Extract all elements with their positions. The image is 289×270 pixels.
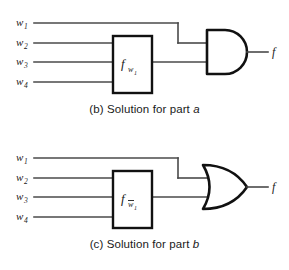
circuit-diagram-or: f w 1 f w 1 w 2 w 3 w 4 [0,135,289,240]
input-index-w2: 2 [24,177,28,186]
output-label-f: f [272,180,277,194]
output-label-f: f [272,45,277,59]
input-index-w1: 1 [24,157,28,166]
input-index-w4: 4 [24,81,28,90]
input-label-w1: w [16,16,24,28]
input-index-w4: 4 [24,216,28,225]
input-index-w3: 3 [23,61,28,70]
input-index-w1: 1 [24,22,28,31]
input-label-w3: w [16,55,24,67]
figure-solution-part-a: f w 1 f w 1 w 2 w 3 w 4 (b) Solution for… [0,0,289,135]
circuit-diagram-and: f w 1 f w 1 w 2 w 3 w 4 [0,0,289,105]
caption-prefix-b: (b) Solution for part [89,103,193,115]
caption-part-b: (c) Solution for part b [0,238,289,250]
figure-solution-part-b: f w 1 f w 1 w 2 w 3 w 4 (c) Solution for… [0,135,289,270]
and-gate-body [207,30,247,74]
caption-letter-b: b [193,238,200,250]
box-subscript-index: 1 [134,70,137,76]
caption-letter-a: a [193,103,200,115]
input-label-w4: w [16,75,24,87]
input-label-w2: w [16,171,24,183]
box-subscript-index: 1 [134,205,137,211]
input-index-w2: 2 [24,42,28,51]
input-label-w3: w [16,190,24,202]
input-label-w1: w [16,151,24,163]
caption-part-a: (b) Solution for part a [0,103,289,115]
input-label-w4: w [16,210,24,222]
input-label-w2: w [16,36,24,48]
or-gate-body [203,165,247,209]
caption-prefix-c: (c) Solution for part [90,238,193,250]
input-index-w3: 3 [23,196,28,205]
